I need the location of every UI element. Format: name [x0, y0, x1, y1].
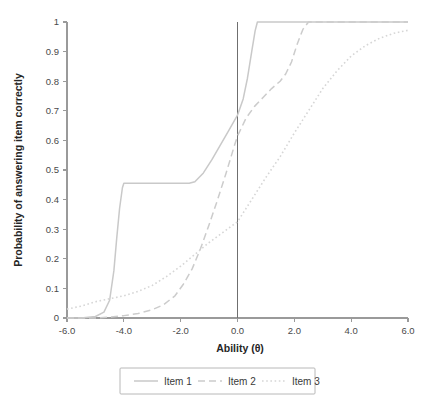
legend-label-item-3: Item 3 — [292, 376, 320, 387]
x-tick-label: 2.0 — [288, 325, 301, 336]
chart-figure: 00.10.20.30.40.50.60.70.80.91 -6.0-4.0-2… — [0, 0, 434, 408]
x-tick-label: -4.0 — [116, 325, 132, 336]
chart-legend: Item 1Item 2Item 3 — [120, 368, 320, 394]
item-characteristic-curves-chart: 00.10.20.30.40.50.60.70.80.91 -6.0-4.0-2… — [0, 0, 434, 408]
y-tick-label: 0.4 — [46, 194, 59, 205]
y-tick-label: 0.1 — [46, 283, 59, 294]
legend-label-item-2: Item 2 — [228, 376, 256, 387]
x-axis-ticks — [67, 318, 408, 322]
x-tick-label: -2.0 — [172, 325, 188, 336]
x-axis-title: Ability (θ) — [216, 342, 264, 354]
x-tick-label: 0.0 — [231, 325, 244, 336]
x-axis-group: -6.0-4.0-2.00.02.04.06.0 — [59, 318, 415, 336]
y-tick-label: 0.9 — [46, 46, 59, 57]
x-tick-label: 6.0 — [401, 325, 414, 336]
y-axis-ticks — [63, 22, 67, 318]
y-tick-label: 1 — [54, 16, 59, 27]
y-axis-group: 00.10.20.30.40.50.60.70.80.91 — [46, 16, 67, 323]
y-tick-label: 0.8 — [46, 76, 59, 87]
y-axis-tick-labels: 00.10.20.30.40.50.60.70.80.91 — [46, 16, 59, 323]
legend-label-item-1: Item 1 — [164, 376, 192, 387]
y-tick-label: 0.6 — [46, 135, 59, 146]
y-tick-label: 0 — [54, 312, 59, 323]
y-axis-title: Probability of answering item correctly — [12, 73, 24, 267]
y-tick-label: 0.5 — [46, 164, 59, 175]
x-tick-label: 4.0 — [345, 325, 358, 336]
y-tick-label: 0.2 — [46, 253, 59, 264]
x-tick-label: -6.0 — [59, 325, 75, 336]
y-tick-label: 0.3 — [46, 224, 59, 235]
y-tick-label: 0.7 — [46, 105, 59, 116]
x-axis-tick-labels: -6.0-4.0-2.00.02.04.06.0 — [59, 325, 415, 336]
